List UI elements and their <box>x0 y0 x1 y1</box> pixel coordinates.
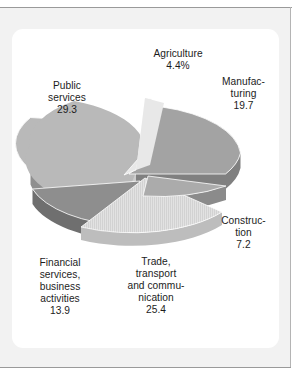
bottom-divider <box>0 367 291 368</box>
pie-label-agriculture: Agriculture 4.4% <box>130 48 226 72</box>
pie-label-manufacturing: Manufac- turing 19.7 <box>208 76 279 112</box>
chart-page: Public services 29.3 Agriculture 4.4% Ma… <box>0 0 303 379</box>
pie-label-financial-services: Financial services, business activities … <box>18 257 102 317</box>
pie-label-construction: Construc- tion 7.2 <box>208 215 279 251</box>
pie-label-public-services: Public services 29.3 <box>26 80 108 116</box>
top-divider <box>0 7 292 8</box>
chart-card: Public services 29.3 Agriculture 4.4% Ma… <box>12 29 279 348</box>
right-divider <box>290 7 291 368</box>
pie-chart: Public services 29.3 Agriculture 4.4% Ma… <box>12 29 279 348</box>
pie-label-trade: Trade, transport and commu- nication 25.… <box>110 256 202 316</box>
